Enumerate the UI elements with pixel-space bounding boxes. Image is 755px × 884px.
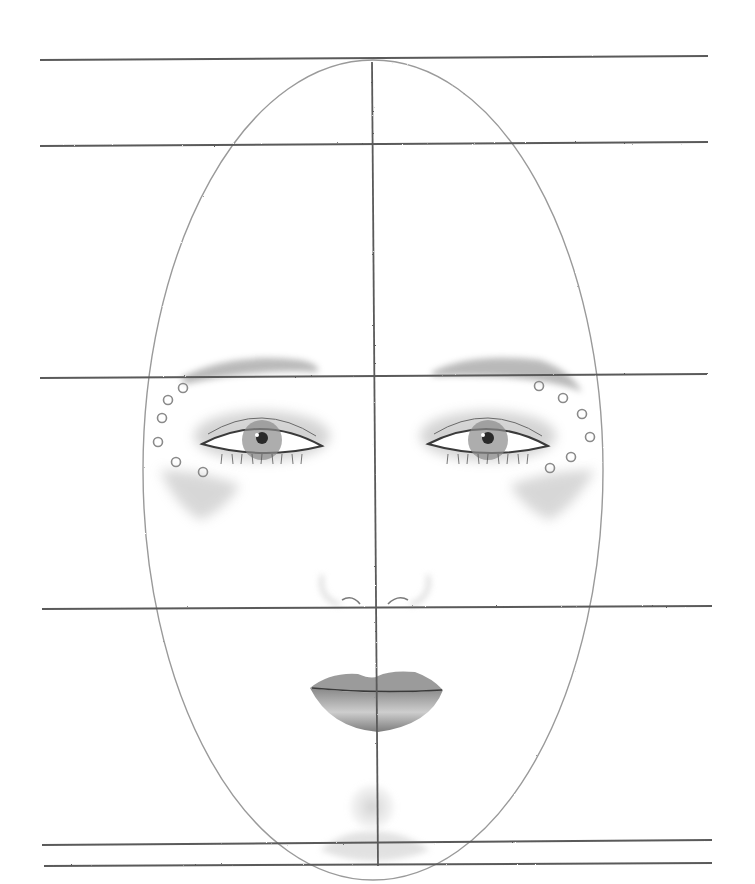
cheek-shading-left bbox=[160, 470, 240, 520]
nostril-left bbox=[342, 598, 360, 604]
decorative-dot bbox=[164, 396, 173, 405]
decorative-dot bbox=[578, 410, 587, 419]
nostril-right bbox=[388, 598, 408, 604]
jaw-shading bbox=[320, 832, 430, 861]
decorative-dot bbox=[179, 384, 188, 393]
eye-highlight bbox=[481, 433, 485, 437]
decorative-dot bbox=[567, 453, 576, 462]
eye-right bbox=[420, 411, 556, 464]
decorative-dot bbox=[535, 382, 544, 391]
nose-line bbox=[42, 606, 712, 609]
center-line bbox=[372, 62, 378, 866]
eye-highlight bbox=[255, 433, 259, 437]
eye-left bbox=[194, 411, 330, 464]
guide-lines-layer bbox=[40, 56, 712, 866]
decorative-dot bbox=[158, 414, 167, 423]
decorative-dot bbox=[546, 464, 555, 473]
decorative-dot bbox=[559, 394, 568, 403]
decorative-dot bbox=[172, 458, 181, 467]
decorative-dot bbox=[154, 438, 163, 447]
chin-shadow bbox=[350, 785, 394, 829]
face-proportion-diagram bbox=[0, 0, 755, 884]
decorative-dot bbox=[586, 433, 595, 442]
hairline-line bbox=[40, 142, 708, 146]
cheek-shading-right bbox=[510, 470, 595, 520]
eyebrow-left bbox=[180, 358, 318, 384]
drawing-canvas bbox=[0, 0, 755, 884]
